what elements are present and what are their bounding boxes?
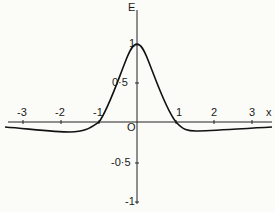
x-tick-label: 3	[249, 107, 255, 118]
x-axis-label: x	[266, 107, 272, 118]
y-tick-label: -1	[125, 196, 135, 207]
chart-container: E x O -3 -2 -1 1 2 3 1 0·5 -0·5 -1	[0, 0, 275, 212]
x-tick-label: 1	[176, 107, 182, 118]
y-tick-label: 1	[129, 38, 135, 49]
y-axis-label: E	[128, 2, 135, 13]
chart-plot	[0, 0, 275, 212]
origin-label: O	[127, 122, 136, 133]
series-line-E	[5, 44, 272, 132]
x-tick-label: 2	[211, 107, 217, 118]
y-tick-label: 0·5	[112, 77, 128, 88]
x-tick-label: -2	[55, 107, 65, 118]
x-tick-label: -3	[17, 107, 27, 118]
y-tick-label: -0·5	[111, 157, 131, 168]
x-tick-label: -1	[93, 107, 103, 118]
